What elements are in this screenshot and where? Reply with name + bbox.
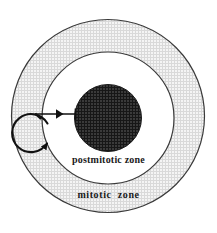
postmitotic-zone-label: postmitotic zone [0,155,217,165]
inner-core [75,85,142,152]
zone-diagram-figure: postmitotic zone mitotic zone [0,0,217,233]
mitotic-zone-label: mitotic zone [0,190,217,200]
